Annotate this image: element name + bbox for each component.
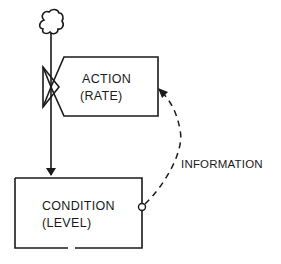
rate-node[interactable]: ACTION (RATE) [51, 57, 158, 116]
arrowhead-icon [158, 88, 168, 98]
cloud-icon [40, 9, 64, 33]
information-takeoff-icon [139, 204, 146, 211]
stock-flow-diagram: ACTION (RATE) CONDITION (LEVEL) INFORMAT… [0, 0, 281, 264]
level-node[interactable]: CONDITION (LEVEL) [15, 178, 142, 248]
information-link[interactable] [145, 88, 181, 204]
information-label: INFORMATION [181, 158, 263, 170]
level-node-label-line2: (LEVEL) [42, 216, 91, 230]
rate-node-label-line1: ACTION [82, 72, 131, 86]
level-node-label-line1: CONDITION [42, 199, 115, 213]
rate-node-label-line2: (RATE) [80, 89, 123, 103]
